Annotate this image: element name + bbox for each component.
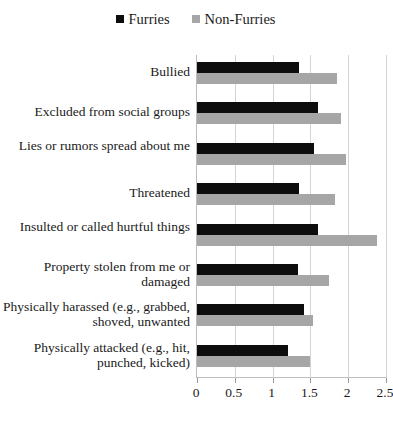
category-label: Physically attacked (e.g., hit, punched,…	[0, 340, 195, 370]
bar-non-furries	[197, 356, 310, 367]
x-axis-tick-labels: 00.511.522.5	[196, 385, 385, 405]
category-label: Physically harassed (e.g., grabbed, shov…	[0, 299, 195, 329]
chart-legend: Furries Non-Furries	[0, 12, 391, 27]
x-axis-tick	[348, 378, 349, 383]
bar-furries	[197, 102, 318, 113]
legend-swatch-furries-icon	[116, 15, 124, 23]
bar-non-furries	[197, 113, 341, 124]
bar-non-furries	[197, 154, 346, 165]
legend-swatch-non-furries-icon	[192, 15, 200, 23]
x-axis-tick-label: 2	[344, 385, 351, 401]
x-axis-line	[197, 377, 386, 378]
legend-label-non-furries: Non-Furries	[205, 12, 276, 27]
bar-furries	[197, 62, 299, 73]
bar-non-furries	[197, 235, 377, 246]
category-label: Lies or rumors spread about me	[0, 138, 195, 153]
bar-furries	[197, 224, 318, 235]
x-axis-tick	[235, 378, 236, 383]
bar-non-furries	[197, 275, 329, 286]
legend-item-furries: Furries	[116, 12, 170, 27]
bar-furries	[197, 183, 299, 194]
bar-furries	[197, 264, 298, 275]
bar-non-furries	[197, 73, 337, 84]
x-axis-tick	[386, 378, 387, 383]
x-axis-tick	[310, 378, 311, 383]
bar-furries	[197, 345, 288, 356]
x-axis-tick-label: 1	[268, 385, 275, 401]
category-label: Insulted or called hurtful things	[0, 219, 195, 234]
x-axis-tick-label: 1.5	[301, 385, 318, 401]
plot-area	[196, 55, 386, 378]
bar-furries	[197, 143, 314, 154]
category-label: Bullied	[0, 64, 195, 79]
x-axis-tick	[197, 378, 198, 383]
category-label: Excluded from social groups	[0, 104, 195, 119]
bar-furries	[197, 304, 304, 315]
legend-label-furries: Furries	[129, 12, 170, 27]
bar-non-furries	[197, 194, 335, 205]
category-label: Property stolen from me or damaged	[0, 259, 195, 289]
x-axis-tick-label: 2.5	[377, 385, 393, 401]
gridline	[386, 55, 387, 378]
gridline	[348, 55, 349, 378]
x-axis-tick	[273, 378, 274, 383]
x-axis-tick-label: 0.5	[225, 385, 242, 401]
legend-item-non-furries: Non-Furries	[192, 12, 276, 27]
x-axis-tick-label: 0	[193, 385, 200, 401]
bar-non-furries	[197, 315, 313, 326]
category-label: Threatened	[0, 185, 195, 200]
